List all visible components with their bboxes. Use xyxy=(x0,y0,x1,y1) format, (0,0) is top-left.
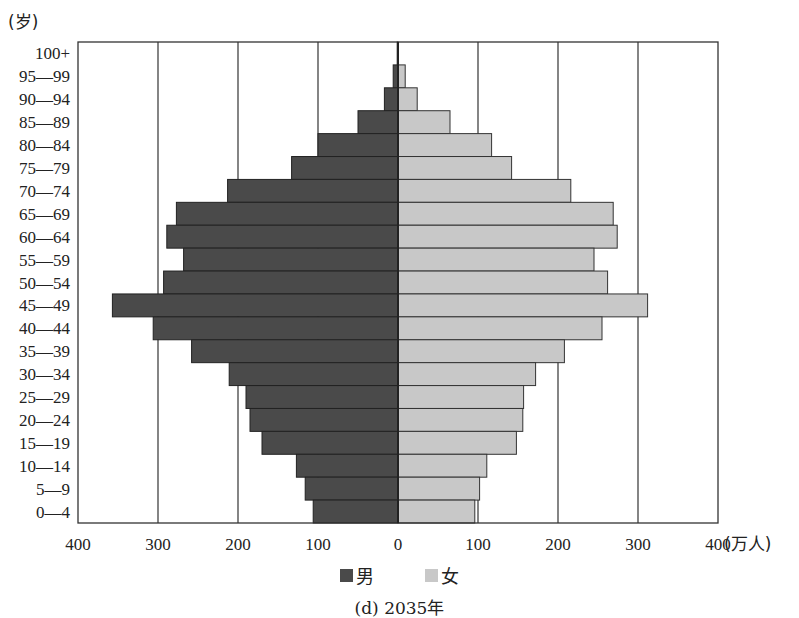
age-label: 100+ xyxy=(35,44,70,63)
bars xyxy=(112,42,647,523)
legend: 男 女 xyxy=(0,562,799,588)
x-tick-label: 400 xyxy=(65,535,91,554)
age-label: 50—54 xyxy=(19,274,71,293)
x-tick-label: 200 xyxy=(545,535,571,554)
bar-female xyxy=(398,134,492,157)
age-label: 45—49 xyxy=(19,296,70,315)
bar-female xyxy=(398,225,617,248)
bar-male xyxy=(384,88,398,111)
bar-female xyxy=(398,294,648,317)
bar-female xyxy=(398,386,524,409)
age-label: 65—69 xyxy=(19,205,70,224)
bar-male xyxy=(246,386,398,409)
bar-female xyxy=(398,500,475,523)
bar-female xyxy=(398,317,602,340)
age-label: 55—59 xyxy=(19,251,70,270)
x-tick-label: 300 xyxy=(625,535,651,554)
bar-female xyxy=(398,157,512,180)
x-tick-labels: 4003002001000100200300400 xyxy=(65,535,731,554)
bar-female xyxy=(398,431,516,454)
bar-male xyxy=(358,111,398,134)
bar-female xyxy=(398,340,564,363)
age-label: 75—79 xyxy=(19,159,70,178)
bar-male xyxy=(229,363,398,386)
bar-female xyxy=(398,271,608,294)
y-axis-unit: (岁) xyxy=(8,12,38,32)
age-label: 15—19 xyxy=(19,434,70,453)
age-label: 80—84 xyxy=(19,136,71,155)
legend-female-label: 女 xyxy=(441,562,459,588)
age-label: 40—44 xyxy=(19,319,71,338)
bar-male xyxy=(164,271,398,294)
bar-male xyxy=(176,202,398,225)
bar-male xyxy=(296,454,398,477)
bar-female xyxy=(398,202,613,225)
legend-male-label: 男 xyxy=(356,562,374,588)
bar-female xyxy=(398,65,405,88)
bar-male xyxy=(318,134,398,157)
bar-male xyxy=(305,477,398,500)
age-label: 70—74 xyxy=(19,182,71,201)
age-label: 0—4 xyxy=(36,503,71,522)
age-label: 35—39 xyxy=(19,342,70,361)
bar-female xyxy=(398,88,417,111)
bar-male xyxy=(313,500,398,523)
legend-male-swatch xyxy=(340,569,353,582)
x-axis-unit: (万人) xyxy=(724,534,771,554)
bar-female xyxy=(398,477,480,500)
population-pyramid-chart: 100+95—9990—9485—8980—8475—7970—7465—696… xyxy=(0,0,799,560)
bar-male xyxy=(250,408,398,431)
bar-male xyxy=(228,179,398,202)
age-label: 20—24 xyxy=(19,411,71,430)
bar-male xyxy=(184,248,398,271)
bar-male xyxy=(167,225,398,248)
bar-female xyxy=(398,363,536,386)
x-tick-label: 100 xyxy=(305,535,331,554)
bar-female xyxy=(398,111,450,134)
age-label: 85—89 xyxy=(19,113,70,132)
bar-male xyxy=(262,431,398,454)
bar-female xyxy=(398,248,594,271)
bar-male xyxy=(192,340,398,363)
legend-female-swatch xyxy=(425,569,438,582)
x-tick-label: 300 xyxy=(145,535,171,554)
bar-male xyxy=(153,317,398,340)
age-label: 60—64 xyxy=(19,228,71,247)
x-tick-label: 100 xyxy=(465,535,491,554)
age-label: 95—99 xyxy=(19,67,70,86)
bar-male xyxy=(112,294,398,317)
bar-male xyxy=(292,157,398,180)
age-labels: 100+95—9990—9485—8980—8475—7970—7465—696… xyxy=(19,44,71,521)
bar-female xyxy=(398,179,571,202)
bar-female xyxy=(398,454,487,477)
x-tick-label: 200 xyxy=(225,535,251,554)
age-label: 25—29 xyxy=(19,388,70,407)
bar-female xyxy=(398,408,523,431)
x-tick-label: 0 xyxy=(394,535,403,554)
chart-caption: (d) 2035年 xyxy=(0,594,799,618)
age-label: 10—14 xyxy=(19,457,71,476)
age-label: 90—94 xyxy=(19,90,71,109)
age-label: 5—9 xyxy=(36,480,70,499)
age-label: 30—34 xyxy=(19,365,71,384)
